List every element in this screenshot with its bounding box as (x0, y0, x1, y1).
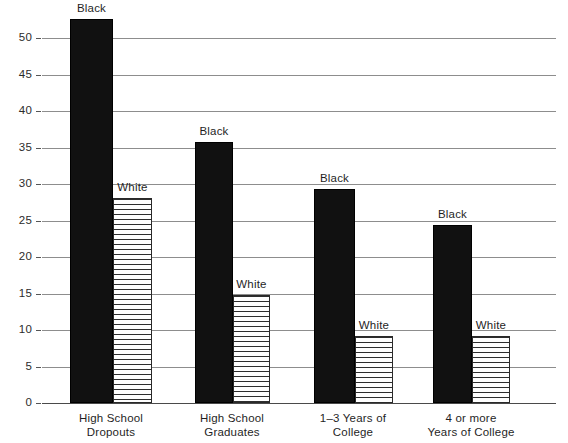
y-axis-tick-label: 35 (6, 141, 32, 153)
gridline-40 (42, 111, 556, 112)
y-tick-mark (36, 257, 41, 258)
gridline-35 (42, 148, 556, 149)
bar-label-black-group-2: Black (294, 172, 375, 184)
y-axis-tick-label: 45 (6, 68, 32, 80)
y-axis-tick-label: 50 (6, 31, 32, 43)
y-tick-mark (36, 330, 41, 331)
y-axis-tick-label: 20 (6, 250, 32, 262)
y-axis-tick-label: 15 (6, 287, 32, 299)
y-tick-mark (36, 148, 41, 149)
bar-label-white-group-3: White (452, 319, 530, 331)
bar-black-group-0 (70, 19, 113, 403)
x-axis-line (42, 403, 556, 404)
gridline-50 (42, 38, 556, 39)
y-axis-tick-label: 5 (6, 360, 32, 372)
y-axis-tick-label: 25 (6, 214, 32, 226)
bar-white-group-0 (113, 198, 152, 403)
bar-label-white-group-1: White (213, 278, 290, 290)
y-tick-mark (36, 403, 41, 404)
bar-white-group-1 (233, 295, 270, 403)
bar-label-white-group-2: White (335, 319, 413, 331)
category-label-line: 4 or more (391, 411, 551, 425)
bar-chart: 05101520253035404550BlackBlackBlackBlack… (0, 0, 568, 443)
y-tick-mark (36, 294, 41, 295)
y-tick-mark (36, 367, 41, 368)
bar-black-group-3 (433, 225, 472, 403)
bar-black-group-2 (314, 189, 355, 403)
bar-white-group-3 (472, 336, 510, 403)
gridline-45 (42, 75, 556, 76)
y-axis-tick-label: 40 (6, 104, 32, 116)
bar-label-black-group-1: Black (175, 125, 253, 137)
y-tick-mark (36, 184, 41, 185)
y-tick-mark (36, 111, 41, 112)
category-label-line: Years of College (391, 425, 551, 439)
y-tick-mark (36, 75, 41, 76)
bar-white-group-2 (355, 336, 393, 403)
bar-label-white-group-0: White (93, 181, 172, 193)
x-axis-category-label-3: 4 or moreYears of College (391, 411, 551, 439)
bar-label-black-group-0: Black (50, 2, 133, 14)
y-tick-mark (36, 221, 41, 222)
y-axis-tick-label: 10 (6, 323, 32, 335)
bar-label-black-group-3: Black (413, 208, 492, 220)
y-axis-tick-label: 30 (6, 177, 32, 189)
y-axis-tick-label: 0 (6, 396, 32, 408)
y-tick-mark (36, 38, 41, 39)
bar-black-group-1 (195, 142, 233, 403)
